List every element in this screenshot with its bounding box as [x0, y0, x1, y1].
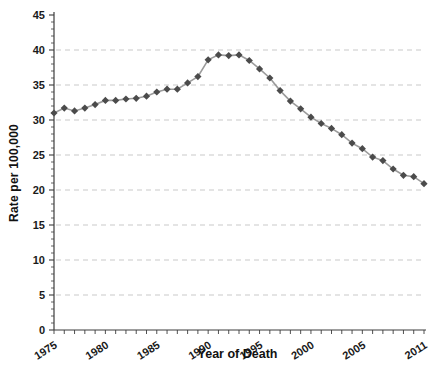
- svg-text:0: 0: [39, 324, 45, 336]
- svg-text:25: 25: [33, 149, 45, 161]
- svg-text:30: 30: [33, 114, 45, 126]
- svg-text:2011: 2011: [402, 339, 429, 362]
- svg-text:45: 45: [33, 9, 45, 21]
- y-axis-title: Rate per 100,000: [7, 103, 21, 243]
- x-axis-title: Year of Death: [130, 347, 345, 361]
- svg-text:15: 15: [33, 219, 45, 231]
- svg-text:20: 20: [33, 184, 45, 196]
- line-chart-canvas: 0510152025303540451975198019851990199520…: [0, 0, 433, 370]
- svg-text:5: 5: [39, 289, 45, 301]
- mortality-rate-chart: Rate per 100,000 05101520253035404519751…: [0, 0, 433, 370]
- svg-text:40: 40: [33, 44, 45, 56]
- svg-text:35: 35: [33, 79, 45, 91]
- svg-text:1975: 1975: [32, 339, 59, 362]
- svg-text:10: 10: [33, 254, 45, 266]
- svg-text:1980: 1980: [83, 339, 110, 362]
